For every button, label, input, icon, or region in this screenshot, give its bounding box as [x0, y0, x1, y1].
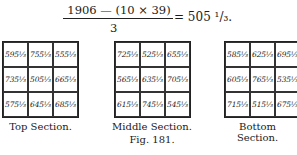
grid-cell: 615⅓: [115, 92, 140, 117]
grid-cell: 645⅓: [28, 92, 53, 117]
grid-cell: 525⅓: [140, 42, 165, 67]
grid-cell: 575⅓: [3, 92, 28, 117]
grid-cell: 595⅓: [3, 42, 28, 67]
middle-section-grid: 725⅓ 525⅓ 655⅓ 565⅓ 635⅓ 705⅓ 615⅓ 745⅓ …: [114, 41, 191, 118]
grid-cell: 685⅓: [53, 92, 78, 117]
grid-cell: 515⅓: [250, 92, 275, 117]
grid-cell: 555⅓: [53, 42, 78, 67]
grid-cell: 705⅓: [165, 67, 190, 92]
grid-cell: 675⅓: [275, 92, 297, 117]
grid-cell: 665⅓: [53, 67, 78, 92]
fraction-bar: [63, 18, 173, 19]
grid-cell: 765⅓: [250, 67, 275, 92]
grid-cell: 755⅓: [28, 42, 53, 67]
grid-cell: 725⅓: [115, 42, 140, 67]
grid-cell: 635⅓: [140, 67, 165, 92]
formula-numerator: 1906 — (10 × 39): [65, 3, 173, 17]
grid-cell: 605⅓: [225, 67, 250, 92]
middle-section-label: Middle Section.: [104, 121, 200, 132]
figure-caption: Fig. 181.: [104, 134, 200, 145]
bottom-section-label: Bottom Section.: [218, 121, 297, 143]
grid-cell: 735⅓: [3, 67, 28, 92]
grid-cell: 715⅓: [225, 92, 250, 117]
formula-denominator: 3: [110, 21, 117, 35]
top-section-label: Top Section.: [2, 121, 79, 132]
bottom-section-grid: 585⅓ 625⅓ 695⅓ 605⅓ 765⅓ 535⅓ 715⅓ 515⅓ …: [224, 41, 297, 118]
grid-cell: 745⅓: [140, 92, 165, 117]
grid-cell: 655⅓: [165, 42, 190, 67]
grid-cell: 625⅓: [250, 42, 275, 67]
grid-cell: 545⅓: [165, 92, 190, 117]
formula: 1906 — (10 × 39) 3 = 505 ¹/₃.: [0, 0, 297, 38]
grid-cell: 505⅓: [28, 67, 53, 92]
grid-cell: 565⅓: [115, 67, 140, 92]
grid-cell: 695⅓: [275, 42, 297, 67]
formula-result: = 505 ¹/₃.: [174, 10, 232, 24]
top-section-grid: 595⅓ 755⅓ 555⅓ 735⅓ 505⅓ 665⅓ 575⅓ 645⅓ …: [2, 41, 79, 118]
grid-cell: 535⅓: [275, 67, 297, 92]
grid-cell: 585⅓: [225, 42, 250, 67]
